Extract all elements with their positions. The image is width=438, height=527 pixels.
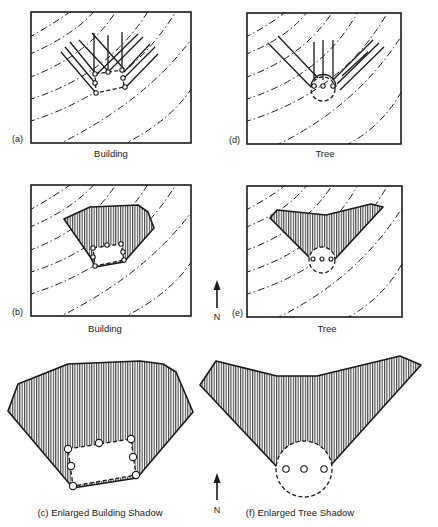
panel-b: (b) Building <box>12 181 198 334</box>
north-label: N <box>214 312 221 322</box>
shadow-diagram: (a) Building (b) Building <box>0 0 438 527</box>
panel-tag: (b) <box>12 307 23 317</box>
panel-caption: (c) Enlarged Building Shadow <box>37 507 162 518</box>
panel-caption: Building <box>88 323 122 334</box>
panel-c: (c) Enlarged Building Shadow <box>8 361 193 518</box>
north-label: N <box>214 505 221 515</box>
panel-caption: Building <box>94 148 128 159</box>
panel-caption: Tree <box>317 323 336 334</box>
panel-tag: (a) <box>12 134 23 144</box>
contour-lines <box>244 8 405 146</box>
panel-e: (e) Tree <box>232 181 405 334</box>
panel-f: (f) Enlarged Tree Shadow <box>200 356 421 518</box>
tree-canopy <box>276 441 332 497</box>
panel-frame <box>247 13 401 144</box>
tree-canopy <box>309 247 335 273</box>
panel-tag: (d) <box>229 135 240 145</box>
panel-d: (d) Tree <box>229 8 405 159</box>
north-arrow: N <box>214 473 221 515</box>
panel-tag: (e) <box>232 308 243 318</box>
panel-caption: Tree <box>315 148 334 159</box>
building-footprint <box>93 68 127 95</box>
panel-caption: (f) Enlarged Tree Shadow <box>246 507 354 518</box>
north-arrow: N <box>214 280 221 322</box>
panel-a: (a) Building <box>12 8 198 159</box>
